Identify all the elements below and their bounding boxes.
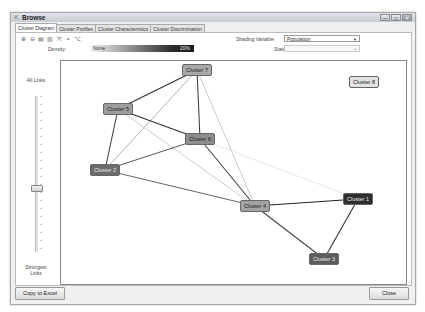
state-select[interactable]: ▼ — [284, 45, 360, 52]
link-c6-c1 — [200, 139, 358, 199]
diagram-toolbar: ⊕ ⊖ ▤ ▥ ⤧ ▪ ⌥ — [20, 36, 80, 42]
browse-window: ⇱ Browse — □ ✕ Cluster Diagram Cluster P… — [10, 12, 416, 305]
shading-variable-label: Shading Variable: — [236, 36, 275, 42]
slider-top-label: All Links — [16, 77, 56, 83]
minimize-button[interactable]: — — [380, 14, 390, 21]
copy-icon[interactable]: ▤ — [38, 36, 44, 42]
zoom-in-icon[interactable]: ⊕ — [20, 36, 26, 42]
cluster-node-c5[interactable]: Cluster 5 — [103, 103, 133, 115]
slider-ticks — [40, 96, 42, 252]
close-button[interactable]: Close — [369, 287, 409, 300]
link-strength-slider-track[interactable] — [35, 96, 38, 252]
cluster-node-c3[interactable]: Cluster 3 — [309, 253, 339, 265]
cluster-node-c2[interactable]: Cluster 2 — [90, 164, 120, 176]
slider-bottom-label: Strongest Links — [16, 264, 56, 276]
cluster-node-c6[interactable]: Cluster 6 — [185, 133, 215, 145]
paste-icon[interactable]: ▥ — [47, 36, 53, 42]
title-bar[interactable]: ⇱ Browse — □ ✕ — [11, 13, 415, 22]
density-low-label: None — [93, 45, 105, 52]
chevron-down-icon: ▼ — [353, 46, 357, 53]
link-c4-c3 — [255, 206, 324, 259]
cluster-diagram-canvas[interactable]: Cluster 7Cluster 5Cluster 6Cluster 2Clus… — [60, 60, 407, 285]
link-strength-slider-area: All Links Strongest Links — [16, 59, 56, 284]
fit-to-screen-icon[interactable]: ⤧ — [56, 36, 62, 42]
link-c7-c6 — [197, 70, 200, 139]
zoom-out-icon[interactable]: ⊖ — [29, 36, 35, 42]
link-c1-c3 — [324, 199, 358, 259]
density-high-label: 20% — [180, 45, 190, 52]
cluster-node-c4[interactable]: Cluster 4 — [240, 200, 270, 212]
cluster-node-c8[interactable]: Cluster 8 — [349, 76, 379, 88]
shading-variable-value: Population — [287, 36, 311, 42]
layout-icon[interactable]: ⌥ — [74, 36, 80, 42]
density-label: Density: — [48, 46, 66, 52]
density-legend-bar: None 20% — [90, 45, 194, 52]
cluster-diagram-panel: ⊕ ⊖ ▤ ▥ ⤧ ▪ ⌥ Shading Variable: Populati… — [15, 32, 412, 286]
link-c5-c2 — [105, 109, 118, 170]
print-icon[interactable]: ▪ — [65, 36, 71, 42]
slider-bottom-label-line2: Links — [16, 270, 56, 276]
cluster-node-c7[interactable]: Cluster 7 — [182, 64, 212, 76]
link-c2-c4 — [105, 170, 255, 206]
maximize-button[interactable]: □ — [391, 14, 401, 21]
browse-icon: ⇱ — [14, 14, 19, 21]
close-window-button[interactable]: ✕ — [402, 14, 412, 21]
window-title: Browse — [22, 14, 45, 21]
link-strength-slider-thumb[interactable] — [31, 185, 43, 192]
copy-to-excel-button[interactable]: Copy to Excel — [15, 287, 65, 300]
chevron-down-icon: ▼ — [353, 36, 357, 43]
cluster-node-c1[interactable]: Cluster 1 — [343, 193, 373, 205]
shading-variable-select[interactable]: Population ▼ — [284, 35, 360, 42]
